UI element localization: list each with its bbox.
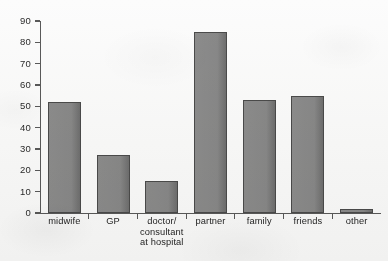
x-category-label-line: at hospital (131, 237, 192, 248)
bar (145, 181, 178, 213)
bar (243, 100, 276, 213)
x-category-label-line: consultant (131, 227, 192, 238)
y-tick-label: 30 (0, 144, 31, 154)
y-tick-label: 50 (0, 101, 31, 111)
y-tick-mark (35, 84, 40, 85)
y-tick-mark (35, 127, 40, 128)
y-tick-label: 60 (0, 80, 31, 90)
chart-page: 0102030405060708090 midwifeGPdoctor/cons… (0, 0, 388, 261)
bar (194, 32, 227, 213)
y-tick-label: 70 (0, 59, 31, 69)
y-tick-label: 40 (0, 123, 31, 133)
y-tick-label: 0 (0, 208, 31, 218)
y-tick-label: 90 (0, 16, 31, 26)
x-category-label: other (326, 216, 387, 227)
x-category-label-line: other (326, 216, 387, 227)
x-axis-line (40, 213, 381, 214)
y-tick-mark (35, 20, 40, 21)
bar (97, 155, 130, 213)
y-tick-label: 10 (0, 187, 31, 197)
y-tick-mark (35, 106, 40, 107)
bar (48, 102, 81, 213)
bar (340, 209, 373, 213)
y-tick-mark (35, 212, 40, 213)
y-tick-mark (35, 63, 40, 64)
bar-chart: 0102030405060708090 midwifeGPdoctor/cons… (0, 0, 388, 261)
y-tick-mark (35, 148, 40, 149)
y-tick-mark (35, 42, 40, 43)
y-axis-line (40, 21, 41, 214)
bar (291, 96, 324, 213)
y-tick-label: 20 (0, 165, 31, 175)
y-tick-label: 80 (0, 37, 31, 47)
y-tick-mark (35, 170, 40, 171)
y-tick-mark (35, 191, 40, 192)
